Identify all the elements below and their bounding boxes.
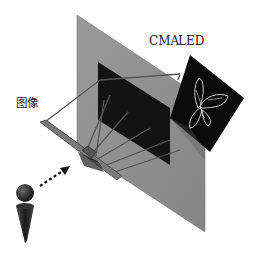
image-label: 图像 [16, 98, 38, 110]
view-arrow [40, 166, 70, 186]
led-label: LED [178, 35, 204, 47]
viewer-icon [16, 184, 34, 243]
aerial-imaging-diagram: CMA LED 图像 [0, 0, 255, 254]
diagram-canvas [0, 0, 255, 254]
cma-label: CMA [149, 35, 179, 47]
